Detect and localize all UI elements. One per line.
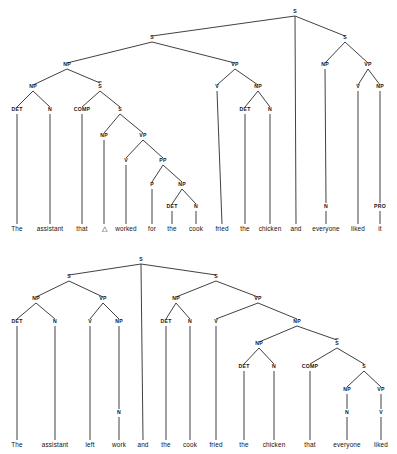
tree-edge bbox=[258, 91, 270, 107]
node-label-s: S bbox=[335, 340, 339, 346]
terminal-word: for bbox=[148, 225, 157, 232]
node-label-n: N bbox=[117, 409, 121, 415]
terminal-word: chicken bbox=[263, 441, 286, 448]
terminal-word: it bbox=[378, 225, 382, 232]
tree-edge bbox=[126, 140, 143, 158]
terminal-words: Theassistantthat△workedforthecookfriedth… bbox=[11, 225, 382, 233]
tree-edges bbox=[17, 16, 380, 224]
tree-edge bbox=[33, 91, 50, 107]
tree-edge bbox=[82, 91, 100, 107]
tree-edge bbox=[259, 348, 274, 364]
node-label-s: S bbox=[118, 106, 122, 112]
terminal-word: the bbox=[239, 441, 249, 448]
node-label-np: NP bbox=[254, 83, 262, 89]
tree-edge bbox=[36, 281, 69, 297]
tree-edge bbox=[244, 348, 259, 364]
tree-edge bbox=[245, 91, 258, 107]
terminal-word: work bbox=[111, 441, 127, 448]
terminal-word: liked bbox=[351, 225, 365, 232]
node-label-det: DET bbox=[11, 318, 23, 324]
terminal-word: the bbox=[240, 225, 250, 232]
tree-edge bbox=[182, 189, 196, 204]
terminal-word: that bbox=[304, 441, 315, 448]
node-label-det: DET bbox=[239, 106, 251, 112]
node-label-n: N bbox=[48, 106, 52, 112]
node-label-s: S bbox=[150, 34, 154, 40]
node-label-v: V bbox=[215, 83, 219, 89]
terminal-word: the bbox=[161, 441, 171, 448]
tree-edge bbox=[325, 69, 326, 203]
node-label-vp: VP bbox=[99, 295, 107, 301]
node-label-np: NP bbox=[178, 181, 186, 187]
terminal-word: that bbox=[76, 225, 87, 232]
node-label-n: N bbox=[194, 203, 198, 209]
node-label-s: S bbox=[214, 273, 218, 279]
tree-nodes: SSSNPVPNPVPNPSVNPVNPDETNCOMPSDETNNPVPVPP… bbox=[11, 8, 386, 209]
node-label-p: P bbox=[150, 181, 154, 187]
empty-category-triangle: △ bbox=[102, 225, 108, 232]
tree-edge bbox=[295, 16, 345, 36]
tree-edge bbox=[36, 303, 55, 319]
tree-edge bbox=[310, 348, 337, 364]
tree-edge bbox=[100, 91, 120, 107]
tree-edge bbox=[259, 326, 297, 342]
terminal-word: cook bbox=[189, 225, 204, 232]
tree-edge bbox=[67, 69, 100, 83]
tree-edge bbox=[166, 303, 176, 319]
node-label-s: S bbox=[343, 34, 347, 40]
tree-edge bbox=[163, 165, 182, 182]
node-label-det: DET bbox=[238, 363, 250, 369]
node-label-vp: VP bbox=[254, 295, 262, 301]
node-label-np: NP bbox=[172, 295, 180, 301]
node-label-n: N bbox=[53, 318, 57, 324]
syntax-tree-bottom-canvas: SSSNPVPNPVPDETNVNPDETNVNPNPSDETNCOMPSNPV… bbox=[0, 254, 397, 454]
tree-edge bbox=[217, 69, 235, 85]
tree-edges bbox=[17, 264, 381, 440]
tree-edge bbox=[337, 348, 364, 364]
tree-edge bbox=[17, 91, 33, 107]
terminal-word: assistant bbox=[37, 225, 64, 232]
tree-edge bbox=[152, 42, 235, 63]
node-label-det: DET bbox=[166, 203, 178, 209]
terminal-word: The bbox=[11, 441, 23, 448]
node-label-np: NP bbox=[100, 132, 108, 138]
tree-edge bbox=[141, 264, 216, 275]
terminal-word: and bbox=[290, 225, 301, 232]
tree-edge bbox=[69, 264, 141, 275]
node-label-v: V bbox=[124, 157, 128, 163]
terminal-word: everyone bbox=[333, 441, 361, 449]
tree-edge bbox=[69, 281, 103, 297]
node-label-s: S bbox=[293, 8, 297, 14]
tree-edge bbox=[325, 42, 345, 63]
tree-edge bbox=[17, 303, 36, 319]
node-label-v: V bbox=[88, 318, 92, 324]
node-label-np: NP bbox=[29, 83, 37, 89]
tree-edge bbox=[297, 326, 337, 340]
tree-edge bbox=[217, 91, 222, 224]
node-label-s: S bbox=[98, 83, 102, 89]
tree-edge bbox=[103, 303, 119, 319]
node-label-pp: PP bbox=[159, 157, 167, 163]
tree-edge bbox=[141, 264, 143, 440]
node-label-s: S bbox=[139, 256, 143, 262]
terminal-words: Theassistantleftworkandthecookfriedthech… bbox=[11, 441, 388, 449]
tree-edge bbox=[347, 371, 364, 387]
node-label-np: NP bbox=[255, 340, 263, 346]
tree-edge bbox=[33, 69, 67, 85]
terminal-word: cook bbox=[183, 441, 198, 448]
terminal-word: and bbox=[137, 441, 148, 448]
tree-edge bbox=[364, 371, 381, 387]
node-label-v: V bbox=[379, 409, 383, 415]
node-label-np: NP bbox=[32, 295, 40, 301]
node-label-v: V bbox=[214, 318, 218, 324]
tree-edge bbox=[172, 189, 182, 204]
node-label-comp: COMP bbox=[74, 106, 91, 112]
node-label-np: NP bbox=[376, 83, 384, 89]
node-label-n: N bbox=[268, 106, 272, 112]
node-label-np: NP bbox=[321, 61, 329, 67]
node-label-np: NP bbox=[63, 61, 71, 67]
node-label-np: NP bbox=[343, 386, 351, 392]
terminal-word: liked bbox=[374, 441, 388, 448]
node-label-det: DET bbox=[11, 106, 23, 112]
terminal-word: worked bbox=[114, 225, 137, 232]
